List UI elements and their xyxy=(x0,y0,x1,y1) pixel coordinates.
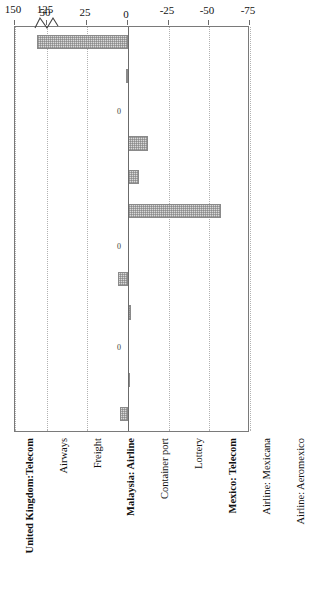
tick-mark-25 xyxy=(86,20,87,25)
gridline--25 xyxy=(169,27,170,431)
tick-label--50: -50 xyxy=(200,4,215,16)
tick-mark-150 xyxy=(14,20,15,25)
category-label: Lottery xyxy=(193,438,204,615)
bar xyxy=(118,272,128,286)
figure-root: 000 -75-50-2502550125150 Welfare gain/lo… xyxy=(0,0,318,615)
bar xyxy=(120,407,128,421)
tick-label-25: 25 xyxy=(80,6,91,18)
bar xyxy=(37,35,128,49)
bar xyxy=(128,136,148,150)
category-label: Airline: Mexicana xyxy=(261,438,272,615)
tick-mark--75 xyxy=(249,20,250,25)
gridline--50 xyxy=(209,27,210,431)
tick-label-0: 0 xyxy=(123,8,129,20)
category-label: Airways xyxy=(58,438,69,615)
plot-area: 000 xyxy=(14,26,249,432)
zero-baseline xyxy=(128,27,129,431)
bar xyxy=(128,170,139,184)
tick-mark-125 xyxy=(46,20,47,25)
gridline-125 xyxy=(47,27,48,431)
gridline--75 xyxy=(250,27,251,431)
bar xyxy=(128,204,221,218)
gridline-150 xyxy=(15,27,16,431)
tick-label--75: -75 xyxy=(241,4,256,16)
tick-label-125: 125 xyxy=(36,3,53,15)
tick-mark--50 xyxy=(208,20,209,25)
category-label: Mexico: Telecom xyxy=(227,438,238,615)
tick-mark--25 xyxy=(168,20,169,25)
gridline-25 xyxy=(87,27,88,431)
tick-label-150: 150 xyxy=(5,3,22,15)
tick-label--25: -25 xyxy=(159,4,174,16)
category-label: United Kingdom:Telecom xyxy=(24,438,35,615)
bar-value-label: 0 xyxy=(117,108,121,116)
category-label: Container port xyxy=(159,438,170,615)
category-label: Malaysia: Airline xyxy=(125,438,136,615)
tick-mark-0 xyxy=(127,20,128,25)
bar-value-label: 0 xyxy=(117,243,121,251)
category-label: Airline: Aeromexico xyxy=(295,438,306,615)
bar-value-label: 0 xyxy=(117,344,121,352)
category-label: Freight xyxy=(92,438,103,615)
